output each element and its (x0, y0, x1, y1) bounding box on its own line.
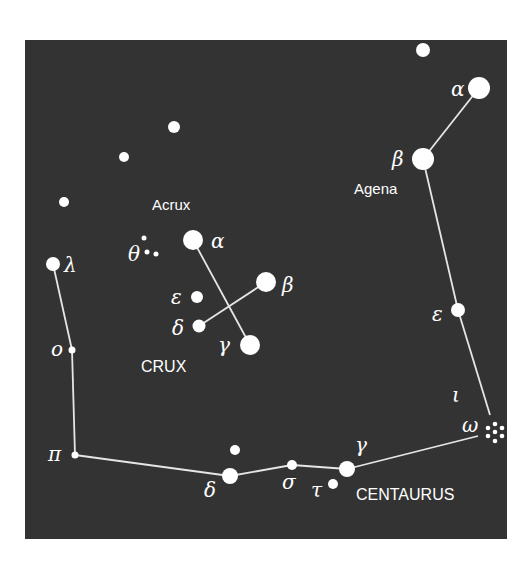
star-chart: αβειωγτσδπολαβγδεθ Acrux Agena CRUX CENT… (0, 0, 532, 574)
centaurus-constellation-label: CENTAURUS (356, 486, 454, 503)
star-cen-delta (222, 468, 238, 484)
star-field-3 (119, 152, 129, 162)
greek-label-cen-omega: ω (462, 413, 478, 437)
star-cru-theta-2 (145, 250, 150, 255)
greek-label-cen-iota: ι (452, 383, 460, 407)
greek-label-cru-theta-1: θ (128, 242, 140, 266)
star-cru-beta (256, 272, 276, 292)
greek-label-cen-delta: δ (204, 478, 216, 502)
greek-label-cen-lambda: λ (63, 253, 77, 277)
greek-label-cen-beta: β (391, 147, 404, 171)
star-field-1 (416, 43, 430, 57)
greek-label-cen-pi: π (47, 442, 62, 466)
greek-label-cen-sigma: σ (282, 470, 297, 494)
star-cen-sigma (287, 460, 297, 470)
star-cen-beta (412, 148, 434, 170)
star-cen-delta-companion (230, 445, 240, 455)
greek-label-cen-epsilon: ε (432, 302, 443, 326)
greek-label-cen-gamma: γ (355, 433, 367, 457)
star-cru-epsilon (191, 291, 203, 303)
greek-label-cru-gamma: γ (218, 333, 230, 357)
star-field-2 (168, 121, 180, 133)
star-cen-tau (328, 479, 338, 489)
star-cru-delta (193, 320, 206, 333)
greek-label-cen-alpha: α (451, 77, 465, 101)
acrux-label: Acrux (152, 196, 191, 213)
greek-label-cru-beta: β (281, 273, 294, 297)
greek-label-cen-omicron: ο (51, 337, 63, 361)
greek-label-cru-alpha: α (211, 229, 225, 253)
star-cen-omicron (69, 347, 76, 354)
greek-label-cru-delta: δ (172, 316, 184, 340)
star-cru-alpha (183, 230, 203, 250)
star-cru-theta-1 (142, 236, 147, 241)
star-cen-lambda (46, 257, 60, 271)
star-cen-alpha (468, 77, 490, 99)
star-cen-gamma (339, 461, 355, 477)
agena-label: Agena (354, 180, 398, 197)
crux-constellation-label: CRUX (141, 358, 187, 375)
star-cru-theta-3 (154, 252, 159, 257)
greek-label-cru-epsilon: ε (171, 285, 182, 309)
star-field-4 (59, 197, 69, 207)
star-cen-pi (72, 452, 79, 459)
star-cru-gamma (240, 335, 260, 355)
greek-label-cen-tau: τ (311, 478, 323, 502)
star-cen-epsilon (451, 303, 465, 317)
